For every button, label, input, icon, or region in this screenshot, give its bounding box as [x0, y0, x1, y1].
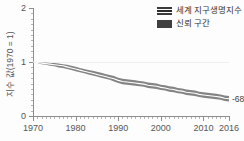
gridline-y: [33, 62, 229, 63]
chart-legend: 세계 지구생명지수 신뢰 구간: [157, 6, 242, 32]
x-tick-minor: [93, 117, 94, 119]
x-tick-minor: [127, 117, 128, 119]
x-tick-minor: [195, 117, 196, 119]
x-tick-minor: [191, 117, 192, 119]
x-tick-minor: [178, 117, 179, 119]
y-tick-minor: [31, 46, 33, 47]
y-tick-label: 1: [10, 58, 26, 67]
x-tick-minor: [84, 117, 85, 119]
x-tick-minor: [105, 117, 106, 119]
index-line-core: [33, 62, 229, 99]
legend-label-confidence: 신뢰 구간: [176, 19, 210, 28]
x-tick-minor: [122, 117, 123, 119]
x-tick-minor: [212, 117, 213, 119]
x-tick-label: 2016: [219, 123, 239, 133]
x-tick-minor: [37, 117, 38, 119]
x-tick-minor: [186, 117, 187, 119]
y-tick-minor: [31, 94, 33, 95]
x-tick-minor: [140, 117, 141, 119]
y-tick-minor: [31, 24, 33, 25]
y-tick-minor: [31, 100, 33, 101]
y-tick-minor: [31, 73, 33, 74]
x-tick: [203, 117, 204, 121]
x-tick-minor: [88, 117, 89, 119]
x-tick-minor: [216, 117, 217, 119]
y-tick-minor: [31, 84, 33, 85]
y-axis-line: [33, 8, 34, 116]
x-tick-minor: [131, 117, 132, 119]
y-tick: [29, 62, 33, 63]
y-tick-minor: [31, 105, 33, 106]
legend-swatch-icon-index: [157, 7, 172, 15]
y-tick-minor: [31, 19, 33, 20]
x-tick-minor: [199, 117, 200, 119]
x-tick-minor: [110, 117, 111, 119]
x-tick-minor: [80, 117, 81, 119]
x-tick-minor: [169, 117, 170, 119]
x-tick-label: 1980: [66, 123, 86, 133]
index-line: [33, 62, 229, 99]
x-tick-minor: [152, 117, 153, 119]
decline-annotation: -68%: [232, 94, 244, 104]
y-tick-label: 2: [10, 4, 26, 13]
x-tick-minor: [208, 117, 209, 119]
living-planet-index-chart: 지수 값(1970 = 1) 012 197019801990200020102…: [0, 0, 244, 141]
y-tick-minor: [31, 35, 33, 36]
legend-item-confidence: 신뢰 구간: [157, 19, 242, 28]
y-tick-minor: [31, 57, 33, 58]
y-tick-minor: [31, 78, 33, 79]
x-tick-minor: [46, 117, 47, 119]
y-tick-minor: [31, 67, 33, 68]
y-tick-label: 0: [10, 112, 26, 121]
x-tick-minor: [63, 117, 64, 119]
x-tick: [76, 117, 77, 121]
x-tick-label: 1970: [23, 123, 43, 133]
x-tick-minor: [101, 117, 102, 119]
y-tick-minor: [31, 51, 33, 52]
y-tick-minor: [31, 89, 33, 90]
y-tick-minor: [31, 13, 33, 14]
x-tick: [229, 117, 230, 121]
x-tick-minor: [182, 117, 183, 119]
x-tick-minor: [148, 117, 149, 119]
confidence-band: [33, 62, 229, 101]
x-tick-minor: [174, 117, 175, 119]
x-tick-minor: [114, 117, 115, 119]
x-tick: [33, 117, 34, 121]
x-tick-label: 1990: [108, 123, 128, 133]
x-tick-minor: [135, 117, 136, 119]
x-tick-minor: [144, 117, 145, 119]
x-tick-minor: [71, 117, 72, 119]
legend-swatch-icon-confidence: [157, 20, 172, 28]
x-tick-label: 2010: [193, 123, 213, 133]
y-tick-minor: [31, 111, 33, 112]
x-tick-minor: [42, 117, 43, 119]
x-tick-minor: [59, 117, 60, 119]
x-tick-minor: [157, 117, 158, 119]
y-tick-minor: [31, 30, 33, 31]
y-tick-minor: [31, 40, 33, 41]
x-tick-minor: [54, 117, 55, 119]
x-tick: [161, 117, 162, 121]
x-tick-minor: [50, 117, 51, 119]
x-tick-label: 2000: [151, 123, 171, 133]
x-tick-minor: [225, 117, 226, 119]
y-tick: [29, 8, 33, 9]
x-tick: [118, 117, 119, 121]
legend-item-index: 세계 지구생명지수: [157, 6, 242, 15]
x-tick-minor: [67, 117, 68, 119]
x-tick-minor: [165, 117, 166, 119]
x-tick-minor: [220, 117, 221, 119]
legend-label-index: 세계 지구생명지수: [176, 6, 242, 15]
x-tick-minor: [97, 117, 98, 119]
